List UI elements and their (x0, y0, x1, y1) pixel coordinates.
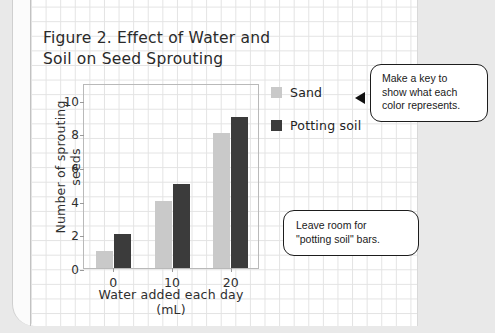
y-axis-tick-mark (80, 169, 84, 170)
legend-swatch-sand (271, 87, 282, 98)
legend-label-sand: Sand (290, 85, 322, 100)
bar-potting-soil-10 (173, 184, 190, 268)
x-axis-label: Water added each day (mL) (83, 287, 259, 317)
y-axis-tick-label: 10 (64, 95, 79, 109)
bar-sand-20 (213, 133, 230, 268)
chart-legend: Sand Potting soil (271, 85, 361, 151)
y-axis-tick-mark (80, 270, 84, 271)
y-axis-tick-mark (80, 236, 84, 237)
figure-title: Figure 2. Effect of Water and Soil on Se… (43, 28, 293, 70)
y-axis-tick-mark (80, 203, 84, 204)
legend-item-sand: Sand (271, 85, 361, 99)
callout-make-a-key: Make a key to show what each color repre… (370, 64, 488, 122)
y-axis-tick-label: 0 (71, 263, 79, 277)
bar-chart: Number of sprouting seeds 024681001020 W… (36, 82, 286, 312)
y-axis-tick-label: 6 (71, 162, 79, 176)
bar-potting-soil-20 (231, 117, 248, 268)
x-axis-tick-mark (231, 268, 232, 272)
bar-sand-0 (96, 251, 113, 268)
plot-inner: 024681001020 (84, 85, 258, 268)
y-axis-tick-mark (80, 102, 84, 103)
x-axis-tick-mark (172, 268, 173, 272)
bar-sand-10 (155, 201, 172, 268)
y-axis-tick-label: 2 (71, 229, 79, 243)
callout-leave-room: Leave room for "potting soil" bars. (283, 210, 419, 256)
plot-frame: 024681001020 (83, 84, 259, 269)
x-axis-tick-mark (113, 268, 114, 272)
y-axis-tick-label: 8 (71, 128, 79, 142)
margin-rule-line (30, 0, 31, 326)
legend-swatch-potting-soil (271, 120, 282, 131)
callout-arrow-icon (355, 92, 365, 104)
legend-label-potting-soil: Potting soil (290, 118, 361, 133)
legend-item-potting-soil: Potting soil (271, 118, 361, 132)
y-axis-tick-mark (80, 135, 84, 136)
bar-potting-soil-0 (114, 234, 131, 268)
y-axis-tick-label: 4 (71, 196, 79, 210)
